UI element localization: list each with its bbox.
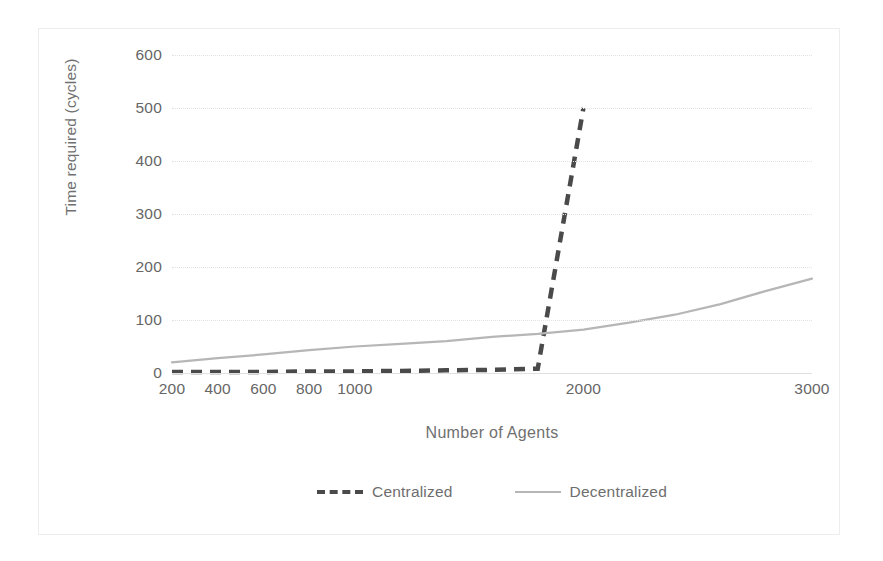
x-axis-title: Number of Agents (172, 424, 812, 442)
y-tick-label-400: 400 (136, 152, 162, 170)
gridline-500 (172, 108, 812, 109)
gridlines (172, 55, 812, 373)
x-tick-label-200: 200 (159, 380, 185, 398)
x-axis-tick-labels: 200400600800100020003000 (172, 380, 812, 404)
x-tick-label-600: 600 (250, 380, 276, 398)
x-tick-label-3000: 3000 (794, 380, 829, 398)
x-tick-label-1000: 1000 (337, 380, 372, 398)
gridline-100 (172, 320, 812, 321)
chart-legend: Centralized Decentralized (172, 483, 812, 501)
y-tick-label-600: 600 (136, 46, 162, 64)
chart-plot-wrapper: Time required (cycles) 01002003004005006… (0, 0, 883, 561)
legend-swatch-dashed-icon (317, 490, 363, 494)
y-axis-tick-labels: 0100200300400500600 (96, 55, 162, 373)
y-tick-label-500: 500 (136, 99, 162, 117)
legend-swatch-solid-icon (515, 491, 561, 493)
y-tick-label-100: 100 (136, 311, 162, 329)
y-axis-title: Time required (cycles) (62, 22, 80, 252)
legend-item-centralized[interactable]: Centralized (317, 483, 453, 501)
plot-area (172, 55, 812, 373)
gridline-0 (172, 373, 812, 374)
legend-label-centralized: Centralized (372, 483, 453, 501)
gridline-200 (172, 267, 812, 268)
gridline-600 (172, 55, 812, 56)
x-tick-label-2000: 2000 (566, 380, 601, 398)
legend-label-decentralized: Decentralized (570, 483, 667, 501)
y-tick-label-200: 200 (136, 258, 162, 276)
gridline-400 (172, 161, 812, 162)
legend-item-decentralized[interactable]: Decentralized (515, 483, 667, 501)
gridline-300 (172, 214, 812, 215)
y-tick-label-300: 300 (136, 205, 162, 223)
x-tick-label-800: 800 (296, 380, 322, 398)
x-tick-label-400: 400 (204, 380, 230, 398)
